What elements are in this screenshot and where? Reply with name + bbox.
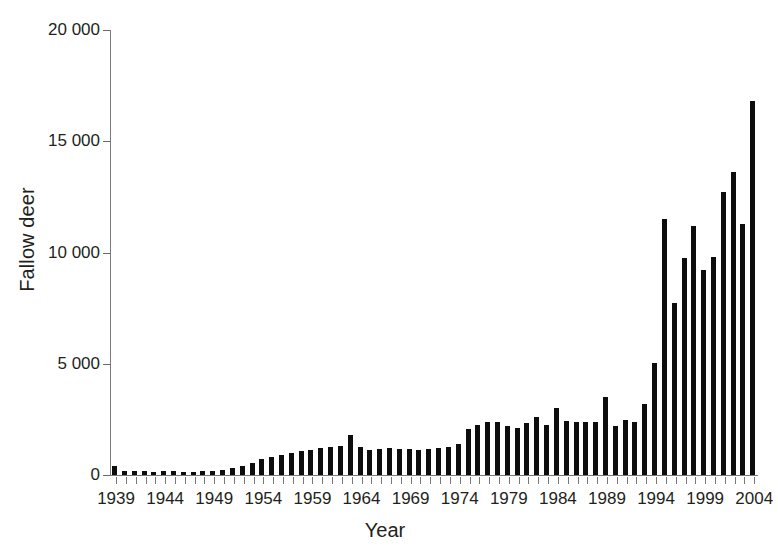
bar (200, 471, 205, 475)
bar (456, 444, 461, 475)
bar (524, 423, 529, 475)
bar (554, 408, 559, 475)
bar (348, 435, 353, 475)
bar (358, 447, 363, 475)
bar (407, 449, 412, 475)
bar (475, 425, 480, 475)
bar (731, 172, 736, 475)
bar (142, 471, 147, 475)
bar (308, 450, 313, 475)
bar (397, 449, 402, 475)
bar (210, 471, 215, 475)
bar (171, 471, 176, 475)
bar (367, 450, 372, 475)
bar (426, 449, 431, 475)
bar (583, 422, 588, 475)
bar (240, 466, 245, 475)
bar (122, 471, 127, 475)
bar (691, 226, 696, 475)
bar (564, 421, 569, 475)
bar (750, 101, 755, 475)
bar (250, 463, 255, 475)
bar (377, 449, 382, 475)
bar (662, 219, 667, 475)
bar (338, 446, 343, 475)
bar (721, 192, 726, 475)
bar (269, 457, 274, 475)
bar (191, 472, 196, 475)
bar (318, 448, 323, 475)
bar (515, 428, 520, 475)
bar (299, 451, 304, 475)
bar (416, 450, 421, 475)
bar (672, 303, 677, 475)
bar (132, 471, 137, 475)
bar (279, 455, 284, 475)
bar (505, 426, 510, 475)
bar (289, 453, 294, 475)
bar (220, 470, 225, 475)
bar (151, 472, 156, 475)
bar (446, 447, 451, 475)
bar (466, 429, 471, 475)
bar (534, 417, 539, 475)
bar (632, 422, 637, 475)
bar (230, 468, 235, 475)
bar (740, 224, 745, 475)
bar (574, 422, 579, 475)
bar (623, 420, 628, 475)
bar (642, 404, 647, 475)
bar (711, 257, 716, 475)
bar (701, 270, 706, 475)
bar (652, 363, 657, 475)
bar (328, 447, 333, 475)
bar (593, 422, 598, 475)
bar (495, 422, 500, 475)
bar (485, 422, 490, 475)
bar (112, 466, 117, 475)
bar (259, 459, 264, 475)
bar (387, 448, 392, 475)
bar (613, 426, 618, 475)
bar (181, 472, 186, 475)
bar (603, 397, 608, 475)
bar (544, 425, 549, 475)
bar (682, 258, 687, 475)
bar (161, 471, 166, 475)
bar (436, 448, 441, 475)
